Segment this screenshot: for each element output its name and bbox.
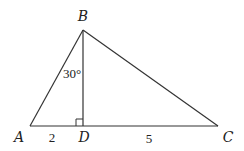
side-bc xyxy=(83,30,218,126)
vertex-label-d: D xyxy=(77,129,89,145)
right-angle-marker xyxy=(76,119,83,126)
triangle-diagram: B A D C 30° 2 5 xyxy=(0,0,244,151)
angle-label-abd: 30° xyxy=(63,66,81,81)
vertex-label-c: C xyxy=(223,129,234,145)
segment-label-dc: 5 xyxy=(146,131,153,146)
vertex-label-a: A xyxy=(12,129,24,145)
vertex-label-b: B xyxy=(77,8,88,24)
segment-label-ad: 2 xyxy=(49,130,56,145)
